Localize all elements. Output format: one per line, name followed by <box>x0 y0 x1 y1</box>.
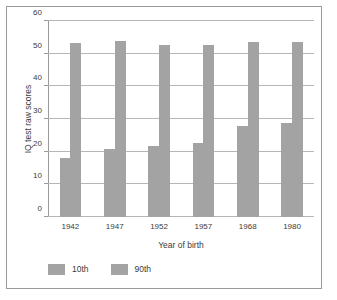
gridline-40 <box>48 85 314 86</box>
bar-10th-1968 <box>237 126 248 217</box>
chart-legend: 10th90th <box>48 264 151 275</box>
x-tick-label: 1968 <box>237 222 259 231</box>
x-tick-label: 1957 <box>193 222 215 231</box>
y-tick-mark <box>44 53 48 54</box>
y-tick-label: 60 <box>33 9 42 17</box>
bar-group: 1947 <box>104 21 126 217</box>
bar-group: 1957 <box>193 21 215 217</box>
gridline-30 <box>48 118 314 119</box>
gridline-10 <box>48 183 314 184</box>
y-tick-label: 10 <box>33 172 42 180</box>
bar-10th-1957 <box>193 143 204 217</box>
y-tick-mark <box>44 151 48 152</box>
x-tick-label: 1952 <box>148 222 170 231</box>
bar-90th-1957 <box>203 45 214 217</box>
y-tick-mark <box>44 85 48 86</box>
bar-group: 1980 <box>281 21 303 217</box>
bar-group: 1968 <box>237 21 259 217</box>
bar-90th-1947 <box>115 41 126 217</box>
y-axis-title: IQ test raw scores <box>22 21 34 217</box>
gridline-60 <box>48 20 314 21</box>
bar-90th-1980 <box>292 42 303 217</box>
legend-entry-10th: 10th <box>48 264 89 275</box>
y-tick-label: 0 <box>38 205 42 213</box>
chart-figure: 0102030405060 194219471952195719681980 Y… <box>0 0 337 300</box>
gridline-20 <box>48 151 314 152</box>
y-tick-label: 20 <box>33 140 42 148</box>
y-tick-label: 50 <box>33 42 42 50</box>
bar-10th-1947 <box>104 149 115 217</box>
legend-label: 90th <box>135 265 152 274</box>
y-axis-line <box>48 21 49 217</box>
x-tick-label: 1980 <box>281 222 303 231</box>
y-tick-label: 30 <box>33 107 42 115</box>
legend-label: 10th <box>72 265 89 274</box>
bar-10th-1952 <box>148 146 159 217</box>
x-tick-label: 1942 <box>60 222 82 231</box>
bar-90th-1968 <box>248 42 259 217</box>
y-tick-mark <box>44 183 48 184</box>
plot-area: 0102030405060 194219471952195719681980 <box>48 21 314 217</box>
y-tick-mark <box>44 118 48 119</box>
bar-group: 1942 <box>60 21 82 217</box>
legend-entry-90th: 90th <box>111 264 152 275</box>
legend-swatch-10th <box>48 264 65 275</box>
legend-swatch-90th <box>111 264 128 275</box>
x-tick-label: 1947 <box>104 222 126 231</box>
y-tick-mark <box>44 216 48 217</box>
x-axis-title: Year of birth <box>48 240 314 250</box>
gridline-50 <box>48 53 314 54</box>
bar-90th-1942 <box>70 43 81 217</box>
bar-10th-1942 <box>60 158 71 217</box>
bar-90th-1952 <box>159 45 170 217</box>
y-tick-mark <box>44 20 48 21</box>
y-tick-label: 40 <box>33 74 42 82</box>
gridline-0 <box>48 216 314 217</box>
bar-10th-1980 <box>281 123 292 217</box>
bar-group: 1952 <box>148 21 170 217</box>
